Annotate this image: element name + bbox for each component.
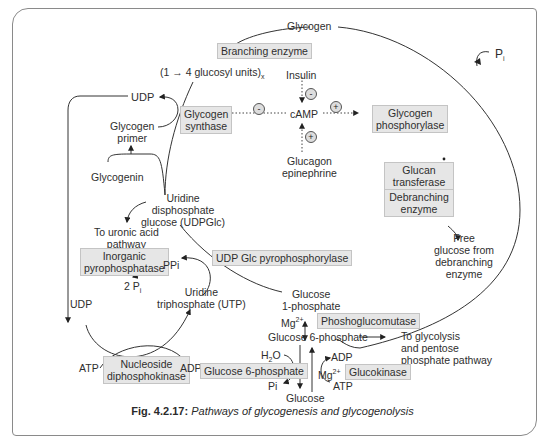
ppi-label: PPi: [163, 259, 179, 271]
minus-sign-insulin: -: [305, 88, 317, 100]
free-glucose-line2: glucose from: [434, 244, 494, 256]
glycolysis-line3: phosphate pathway: [401, 354, 492, 366]
glucosyl-units-subscript: x: [261, 73, 265, 80]
debranching-enzyme: Debranching enzyme: [384, 189, 454, 217]
udpglc-line1: Uridine: [141, 192, 225, 204]
pi-subscript: i: [503, 55, 505, 62]
glycogen-synthase-line2: synthase: [184, 120, 228, 132]
branching-enzyme: Branching enzyme: [217, 43, 312, 59]
glycolysis-label: To glycolysis and pentose phosphate path…: [401, 330, 492, 366]
glycogen-synthase: Glycogen synthase: [180, 106, 232, 134]
nucleoside-diphosphokinase: Nucleoside diphosphokinase: [103, 356, 190, 384]
mg-superscript-1: 2+: [296, 316, 304, 323]
h2o-o: O: [273, 349, 281, 361]
glycogen-phosphorylase-line1: Glycogen: [376, 107, 444, 119]
camp-label: cAMP: [290, 108, 318, 120]
udp-glc-pyrophosphorylase: UDP Glc pyrophosphorylase: [212, 250, 352, 266]
adp-right-label: ADP: [331, 351, 353, 363]
glycogen-synthase-line1: Glycogen: [184, 108, 228, 120]
uronic-acid-label: To uronic acid pathway: [94, 226, 159, 250]
figure-caption: Fig. 4.2.17: Pathways of glycogenesis an…: [0, 405, 545, 417]
utp-line1: Uridine: [157, 286, 246, 298]
g6p-label: Glucose 6-phosphate: [268, 331, 368, 343]
atp-left-label: ATP: [79, 362, 99, 374]
inorganic-pp-line2: pyrophosphatase: [84, 262, 165, 274]
utp-label: Uridine triphosphate (UTP): [157, 286, 246, 310]
caption-text: Pathways of glycogenesis and glycogenoly…: [191, 405, 414, 417]
mg-superscript-2: 2+: [333, 368, 341, 375]
g1p-label: Glucose 1-phosphate: [282, 288, 340, 312]
g1p-line1: Glucose: [282, 288, 340, 300]
glycogenin-label: Glycogenin: [91, 171, 144, 183]
mg-text-2: Mg: [318, 369, 333, 381]
debranching-line2: enzyme: [388, 203, 450, 215]
glycogen-primer-line2: primer: [110, 132, 154, 144]
free-glucose-line1: Free: [434, 232, 494, 244]
uronic-line1: To uronic acid: [94, 226, 159, 238]
inorganic-pyrophosphatase: Inorganic pyrophosphatase: [80, 248, 169, 276]
glucan-transferase: Glucan transferase: [384, 162, 454, 190]
free-glucose-line4: enzyme: [434, 268, 494, 280]
inorganic-pp-line1: Inorganic: [84, 250, 165, 262]
h2o-h: H: [261, 349, 269, 361]
two-pi-text: 2 P: [124, 280, 140, 292]
minus-sign-synthase: -: [253, 103, 265, 115]
glucose-6-phosphatase: Glucose 6-phosphate: [200, 363, 308, 379]
glycogen-primer-label: Glycogen primer: [110, 120, 154, 144]
nucleoside-dpk-line1: Nucleoside: [107, 358, 186, 370]
insulin-label: Insulin: [286, 69, 316, 81]
free-glucose-line3: debranching: [434, 256, 494, 268]
glycolysis-line2: and pentose: [401, 342, 492, 354]
pi-bottom-label: Pi: [268, 380, 277, 392]
glucan-transferase-line2: transferase: [388, 176, 450, 188]
glucagon-line2: epinephrine: [282, 167, 337, 179]
two-pi-label: 2 Pi: [124, 280, 141, 297]
plus-sign-phosphorylase: +: [330, 101, 342, 113]
mg-label-2: Mg2+: [318, 366, 341, 381]
glycogen-phosphorylase: Glycogen phosphorylase: [372, 105, 448, 133]
glucosyl-units-label: (1 → 4 glucosyl units)x: [160, 66, 264, 83]
udp-top-label: UDP: [131, 91, 154, 103]
glycogen-label: Glycogen: [287, 20, 331, 32]
nucleoside-dpk-line2: diphosphokinase: [107, 370, 186, 382]
mg-text-1: Mg: [281, 317, 296, 329]
glucosyl-units-text: (1 → 4 glucosyl units): [160, 66, 261, 78]
plus-sign-glucagon: +: [305, 131, 317, 143]
phosphoglucomutase: Phoshoglucomutase: [317, 313, 420, 329]
pi-text: P: [495, 47, 503, 61]
adp-left-label: ADP: [180, 362, 202, 374]
glucokinase: Glucokinase: [345, 364, 411, 380]
g1p-line2: 1-phosphate: [282, 300, 340, 312]
debranching-line1: Debranching: [388, 191, 450, 203]
two-pi-subscript: i: [140, 287, 142, 294]
udp-bottom-label: UDP: [70, 298, 92, 310]
glucan-transferase-line1: Glucan: [388, 164, 450, 176]
glucagon-epinephrine-label: Glucagon epinephrine: [282, 155, 337, 179]
caption-number: Fig. 4.2.17:: [131, 405, 188, 417]
pi-top-label: Pi: [495, 48, 505, 65]
udpglc-line2: disphosphate: [141, 204, 225, 216]
glycolysis-line1: To glycolysis: [401, 330, 492, 342]
mg-label-1: Mg2+: [281, 314, 304, 329]
glycogen-phosphorylase-line2: phosphorylase: [376, 119, 444, 131]
utp-line2: triphosphate (UTP): [157, 298, 246, 310]
atp-right-label: ATP: [333, 380, 353, 392]
free-glucose-label: Free glucose from debranching enzyme: [434, 232, 494, 280]
glucagon-line1: Glucagon: [282, 155, 337, 167]
glucose-label: Glucose: [286, 392, 325, 404]
glycogen-primer-line1: Glycogen: [110, 120, 154, 132]
udpglc-label: Uridine disphosphate glucose (UDPGlc): [141, 192, 225, 228]
